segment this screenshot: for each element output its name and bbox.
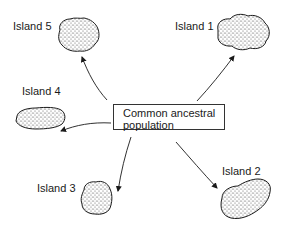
island-1-shape <box>218 14 270 49</box>
arrow-to-island-1 <box>197 56 234 101</box>
arrow-to-island-3 <box>118 137 131 191</box>
island-1-label: Island 1 <box>175 21 214 32</box>
arrow-to-island-4 <box>61 123 111 131</box>
common-ancestral-population-box: Common ancestral population <box>113 104 225 130</box>
island-3-label: Island 3 <box>37 183 76 194</box>
arrow-to-island-2 <box>176 142 217 188</box>
island-2-shape <box>221 179 270 219</box>
center-label-line2: population <box>123 119 224 131</box>
island-5-shape <box>59 18 99 51</box>
island-4-shape <box>16 107 65 129</box>
arrow-to-island-5 <box>82 57 107 100</box>
island-2-label: Island 2 <box>222 166 261 177</box>
center-label-line1: Common ancestral <box>123 107 224 119</box>
island-4-label: Island 4 <box>22 86 61 97</box>
island-5-label: Island 5 <box>13 21 52 32</box>
island-3-shape <box>81 181 112 214</box>
